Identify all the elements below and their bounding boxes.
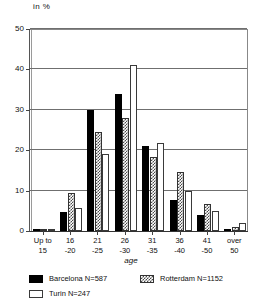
y-tick-label-30: 30 (2, 105, 24, 114)
bar-rotterdam (95, 132, 102, 231)
x-tick-mark (125, 231, 126, 235)
legend-label-turin: Turin N=247 (49, 289, 90, 298)
bar-turin (185, 191, 192, 231)
x-tick-mark (234, 231, 235, 235)
bar-barcelona (87, 110, 94, 231)
legend-item-rotterdam: Rotterdam N=1152 (140, 274, 223, 283)
x-tick-mark (180, 231, 181, 235)
legend-item-barcelona: Barcelona N=587 (29, 274, 107, 283)
legend-label-rotterdam: Rotterdam N=1152 (160, 274, 223, 283)
x-tick-mark (97, 231, 98, 235)
x-tick-mark (207, 231, 208, 235)
x-tick-mark (70, 231, 71, 235)
y-tick-mark-40 (26, 69, 30, 70)
bar-barcelona (115, 94, 122, 231)
x-tick-mark (43, 231, 44, 235)
legend-label-barcelona: Barcelona N=587 (49, 274, 107, 283)
legend-swatch-rotterdam-icon (140, 275, 154, 283)
bar-group (112, 29, 139, 231)
y-tick-label-20: 20 (2, 145, 24, 154)
y-tick-label-0: 0 (2, 226, 24, 235)
plot-area (29, 29, 248, 231)
y-tick-mark-0 (26, 231, 30, 232)
bar-group (194, 29, 221, 231)
x-axis-title: age (0, 256, 262, 265)
y-tick-label-10: 10 (2, 186, 24, 195)
bar-turin (157, 143, 164, 231)
bar-rotterdam (68, 193, 75, 231)
bar-rotterdam (150, 157, 157, 231)
bar-barcelona (170, 200, 177, 231)
bars-layer (30, 30, 247, 231)
bar-rotterdam (177, 172, 184, 231)
bar-barcelona (197, 215, 204, 231)
bar-rotterdam (204, 204, 211, 231)
y-tick-mark-50 (26, 29, 30, 30)
bar-turin (102, 154, 109, 231)
bar-group (222, 29, 249, 231)
bar-turin (239, 223, 246, 231)
y-tick-label-40: 40 (2, 64, 24, 73)
bar-turin (130, 65, 137, 231)
bar-group (85, 29, 112, 231)
bar-rotterdam (122, 118, 129, 231)
x-tick-label: over 50 (217, 236, 251, 255)
legend: Barcelona N=587 Rotterdam N=1152 Turin N… (0, 272, 262, 305)
y-axis-title: in % (33, 2, 50, 11)
bar-group (140, 29, 167, 231)
x-tick-mark (152, 231, 153, 235)
bar-group (30, 29, 57, 231)
y-tick-mark-30 (26, 110, 30, 111)
y-tick-mark-20 (26, 150, 30, 151)
bar-group (167, 29, 194, 231)
bar-turin (75, 208, 82, 231)
legend-swatch-barcelona-icon (29, 275, 43, 283)
legend-swatch-turin-icon (29, 290, 43, 298)
y-tick-mark-10 (26, 191, 30, 192)
bar-chart: in % 01020304050 Up to 1516 -2021 -2526 … (0, 0, 262, 305)
x-axis-line (29, 231, 248, 232)
bar-barcelona (60, 212, 67, 231)
legend-item-turin: Turin N=247 (29, 289, 90, 298)
bar-barcelona (142, 146, 149, 231)
y-tick-label-50: 50 (2, 24, 24, 33)
bar-turin (212, 211, 219, 231)
bar-group (57, 29, 84, 231)
